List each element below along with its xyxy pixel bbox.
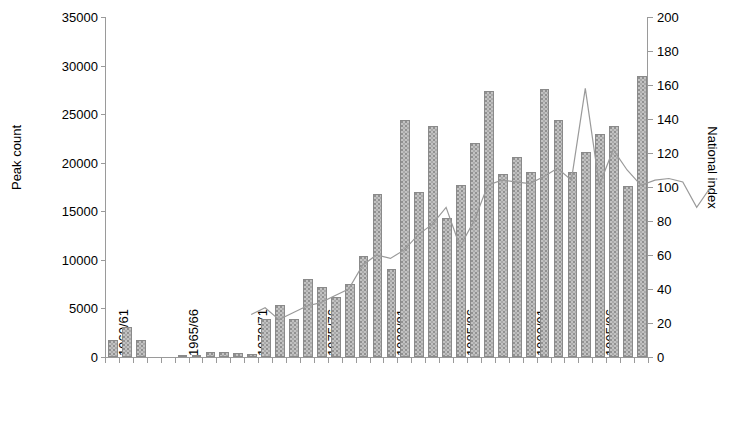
x-axis-tick-mark [425,357,426,363]
y-axis-left-tick-label: 0 [30,351,98,364]
x-axis-tick-mark [105,357,106,363]
chart-container: Peak count National index 05000100001500… [0,0,736,437]
y-axis-right-tick-label: 20 [657,317,671,330]
x-axis-tick-mark [383,357,384,363]
x-axis-tick-mark [537,357,538,363]
x-axis-tick-mark [634,357,635,363]
y-axis-left-tick-label: 5000 [30,302,98,315]
y-axis-right-tick-mark [648,289,653,290]
y-axis-right-tick-label: 60 [657,249,671,262]
x-axis-tick-mark [620,357,621,363]
x-axis-tick-mark [189,357,190,363]
x-axis-tick-mark [606,357,607,363]
y-axis-left-tick-label: 15000 [30,205,98,218]
y-axis-right-tick-mark [648,221,653,222]
y-axis-left-title: Peak count [9,98,24,218]
x-axis-tick-mark [202,357,203,363]
x-axis-tick-mark [147,357,148,363]
y-axis-right-tick-label: 100 [657,181,679,194]
y-axis-right-tick-label: 200 [657,11,679,24]
x-axis-tick-mark [230,357,231,363]
x-axis-tick-mark [119,357,120,363]
y-axis-right-tick-mark [648,17,653,18]
y-axis-right-tick-mark [648,187,653,188]
x-axis-tick-mark [397,357,398,363]
x-axis-tick-mark [481,357,482,363]
x-axis-tick-mark [244,357,245,363]
x-axis-tick-mark [411,357,412,363]
x-axis-tick-mark [300,357,301,363]
x-axis-tick-mark [342,357,343,363]
x-axis-tick-mark [161,357,162,363]
x-axis-tick-mark [592,357,593,363]
y-axis-right-tick-label: 140 [657,113,679,126]
x-axis-tick-mark [286,357,287,363]
x-axis-tick-mark [258,357,259,363]
x-axis-tick-mark [370,357,371,363]
y-axis-left-tick-label: 25000 [30,108,98,121]
x-axis-tick-mark [523,357,524,363]
x-axis-tick-mark [356,357,357,363]
x-axis-tick-mark [467,357,468,363]
y-axis-left-tick-label: 35000 [30,11,98,24]
y-axis-right-tick-label: 40 [657,283,671,296]
x-axis-tick-mark [648,357,649,363]
y-axis-right-tick-label: 80 [657,215,671,228]
y-axis-right-tick-label: 160 [657,79,679,92]
y-axis-right-tick-mark [648,255,653,256]
y-axis-right-tick-mark [648,51,653,52]
x-axis-tick-mark [578,357,579,363]
x-axis-tick-mark [314,357,315,363]
y-axis-right-title: National index [705,108,720,228]
x-axis-tick-mark [509,357,510,363]
x-axis-tick-mark [328,357,329,363]
line-series [105,17,648,357]
y-axis-right-tick-mark [648,153,653,154]
x-axis-tick-mark [551,357,552,363]
y-axis-right-tick-label: 120 [657,147,679,160]
x-axis-tick-mark [216,357,217,363]
x-axis-tick-mark [495,357,496,363]
x-axis-tick-mark [272,357,273,363]
y-axis-right-tick-mark [648,323,653,324]
y-axis-left-tick-label: 10000 [30,253,98,266]
plot-area [105,17,648,357]
x-axis-line [105,357,648,358]
x-axis-tick-mark [564,357,565,363]
x-axis-tick-mark [453,357,454,363]
y-axis-left-tick-label: 30000 [30,59,98,72]
y-axis-left-tick-label: 20000 [30,156,98,169]
y-axis-right-tick-mark [648,85,653,86]
x-axis-tick-mark [133,357,134,363]
x-axis-tick-mark [439,357,440,363]
y-axis-right-tick-label: 0 [657,351,664,364]
y-axis-right-tick-mark [648,119,653,120]
x-axis-tick-mark [175,357,176,363]
y-axis-right-tick-label: 180 [657,45,679,58]
